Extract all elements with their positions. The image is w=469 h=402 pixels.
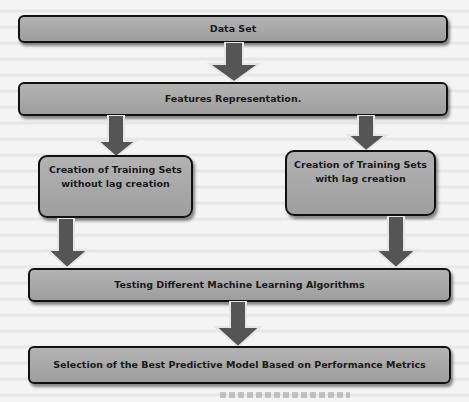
node-label-line2: without lag creation [49, 177, 182, 191]
node-training-without-lag: Creation of Training Sets without lag cr… [38, 155, 193, 218]
caption-text-fragment [220, 392, 350, 398]
arrow-down-icon [374, 216, 418, 270]
node-testing-algorithms: Testing Different Machine Learning Algor… [28, 268, 451, 302]
node-training-with-lag-text: Creation of Training Sets with lag creat… [294, 158, 427, 186]
node-training-with-lag: Creation of Training Sets with lag creat… [285, 150, 436, 216]
arrow-down-icon [46, 218, 90, 270]
node-data-set: Data Set [18, 15, 448, 43]
node-features-label: Features Representation. [165, 92, 302, 106]
node-selection-label: Selection of the Best Predictive Model B… [53, 358, 426, 372]
node-label-line1: Creation of Training Sets [294, 158, 427, 172]
arrow-down-icon [96, 115, 138, 159]
arrow-down-icon [214, 301, 262, 349]
node-testing-label: Testing Different Machine Learning Algor… [114, 278, 364, 292]
node-data-set-label: Data Set [210, 22, 256, 36]
arrow-down-icon [207, 42, 261, 84]
node-label-line1: Creation of Training Sets [49, 163, 182, 177]
node-model-selection: Selection of the Best Predictive Model B… [28, 346, 451, 384]
node-label-line2: with lag creation [294, 172, 427, 186]
arrow-down-icon [346, 115, 388, 153]
node-features-representation: Features Representation. [18, 82, 448, 116]
node-training-without-lag-text: Creation of Training Sets without lag cr… [49, 163, 182, 191]
